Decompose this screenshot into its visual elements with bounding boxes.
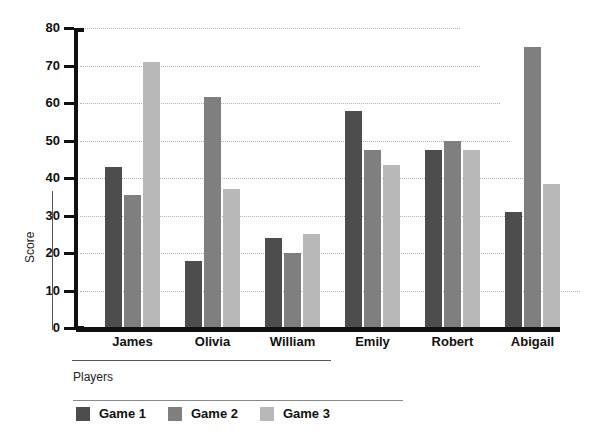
x-axis-category-label: James: [93, 334, 173, 349]
y-axis-tick-label: 10: [26, 284, 60, 297]
x-axis-line: [76, 327, 560, 332]
y-axis-title: Score: [23, 193, 37, 263]
x-axis-title-rule: [72, 360, 331, 361]
y-axis-tick-label: 0: [26, 321, 60, 334]
legend-item[interactable]: Game 1: [76, 407, 146, 421]
x-axis-category-label: Olivia: [173, 334, 253, 349]
plot-area: [78, 28, 594, 328]
y-axis-tick-label: 50: [26, 134, 60, 147]
bar: [185, 261, 202, 329]
x-axis-category-label: Abigail: [493, 334, 573, 349]
bar: [524, 47, 541, 328]
y-axis-tick-label: 60: [26, 96, 60, 109]
bar: [364, 150, 381, 328]
legend-label: Game 1: [99, 407, 146, 421]
y-axis-tick: [64, 290, 74, 293]
bar: [425, 150, 442, 328]
bar: [265, 238, 282, 328]
y-axis-tick: [64, 65, 74, 68]
y-axis-title-rule: [52, 191, 53, 330]
bar: [284, 253, 301, 328]
y-axis-tick: [64, 215, 74, 218]
bar-group: [185, 28, 242, 328]
bar: [345, 111, 362, 329]
legend-swatch-icon: [168, 407, 182, 421]
legend-item[interactable]: Game 3: [260, 407, 330, 421]
legend-rule: [73, 400, 403, 401]
y-axis-tick-label: 40: [26, 171, 60, 184]
bar-group: [105, 28, 162, 328]
legend-swatch-icon: [76, 407, 90, 421]
x-axis-title: Players: [73, 370, 113, 384]
y-axis-tick: [64, 252, 74, 255]
bar: [124, 195, 141, 328]
bar-group: [425, 28, 482, 328]
x-axis-category-label: Robert: [413, 334, 493, 349]
x-axis-category-label: Emily: [333, 334, 413, 349]
bar-group: [265, 28, 322, 328]
bar-group: [505, 28, 562, 328]
y-axis-tick: [64, 177, 74, 180]
bar: [204, 97, 221, 328]
bar-group: [345, 28, 402, 328]
y-axis-tick-label: 80: [26, 21, 60, 34]
bar: [543, 184, 560, 328]
bar: [303, 234, 320, 328]
bar: [444, 141, 461, 329]
bar: [223, 189, 240, 328]
bar: [143, 62, 160, 328]
y-axis-tick: [64, 140, 74, 143]
bar-chart: 01020304050607080 JamesOliviaWilliamEmil…: [0, 0, 610, 445]
legend-label: Game 2: [191, 407, 238, 421]
y-axis-tick: [64, 102, 74, 105]
legend: Game 1Game 2Game 3: [76, 407, 352, 421]
y-axis-tick: [64, 27, 74, 30]
bar: [463, 150, 480, 328]
x-axis-category-label: William: [253, 334, 333, 349]
legend-item[interactable]: Game 2: [168, 407, 238, 421]
legend-swatch-icon: [260, 407, 274, 421]
bar: [383, 165, 400, 328]
legend-label: Game 3: [283, 407, 330, 421]
bar: [105, 167, 122, 328]
y-axis-tick-label: 70: [26, 59, 60, 72]
bar: [505, 212, 522, 328]
y-axis-tick: [64, 327, 74, 330]
